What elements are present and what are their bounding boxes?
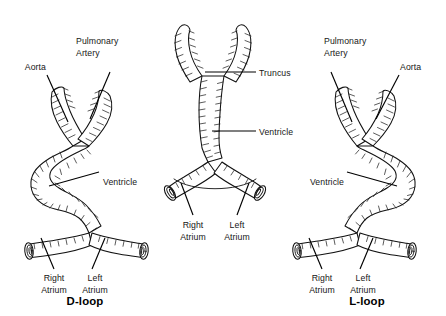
ventricle-label-l: Ventricle (310, 177, 344, 187)
left-atrium-label-l-line1: Left (356, 273, 371, 283)
pulmonary-artery-label-d-line1: Pulmonary (76, 36, 119, 46)
right-atrium-label-l-line1: Right (312, 273, 333, 283)
right-atrium-label-d-line2: Atrium (41, 285, 67, 295)
pulmonary-artery-label-l-line2: Artery (324, 48, 348, 58)
left-atrium-label-d-line1: Left (88, 273, 103, 283)
left-atrium-label-straight-line1: Left (230, 220, 245, 230)
left-atrium-label-l-line2: Atrium (350, 285, 376, 295)
right-atrium-label-straight-line2: Atrium (180, 232, 206, 242)
pulmonary-artery-label-l-line1: Pulmonary (324, 36, 367, 46)
cardiac-looping-figure: Aorta Pulmonary Artery Ventricle Right A… (0, 0, 446, 316)
right-atrium-label-d-line1: Right (44, 273, 65, 283)
right-atrium-label-straight-line1: Right (183, 220, 204, 230)
left-atrium-label-d-line2: Atrium (82, 285, 108, 295)
pulmonary-artery-label-d-line2: Artery (76, 48, 100, 58)
diagram-canvas: Aorta Pulmonary Artery Ventricle Right A… (0, 0, 446, 316)
ventricle-label-d: Ventricle (103, 177, 137, 187)
right-atrium-label-l-line2: Atrium (309, 285, 335, 295)
aorta-label-l: Aorta (400, 62, 421, 72)
ventricle-label-straight: Ventricle (259, 127, 293, 137)
left-atrium-label-straight-line2: Atrium (224, 232, 250, 242)
panel-title-l-loop: L-loop (349, 295, 385, 307)
panel-title-d-loop: D-loop (67, 295, 104, 307)
truncus-label: Truncus (259, 68, 291, 78)
aorta-label-d: Aorta (25, 62, 46, 72)
